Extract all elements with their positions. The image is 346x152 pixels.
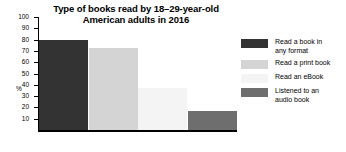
- y-tick-label: 10: [22, 115, 29, 122]
- y-tick-label: 80: [22, 36, 29, 43]
- legend-label: Read a print book: [275, 59, 330, 68]
- chart-title-line-1: Type of books read by 18–29-year-old: [52, 3, 220, 14]
- legend-swatch: [241, 74, 268, 83]
- chart-figure: Type of books read by 18–29-year-old Ame…: [0, 0, 346, 152]
- y-tick-label: 40: [22, 82, 29, 89]
- y-tick: 10: [34, 119, 38, 120]
- y-tick-label: 30: [22, 93, 29, 100]
- y-tick-label: 100: [18, 14, 29, 21]
- x-axis-line: [38, 130, 237, 132]
- y-tick: 50: [34, 74, 38, 75]
- y-tick: 80: [34, 40, 38, 41]
- legend-label: Read a book in any format: [275, 38, 322, 55]
- y-tick: 90: [34, 28, 38, 29]
- y-tick: 70: [34, 51, 38, 52]
- bar: [39, 40, 88, 130]
- y-tick-label: 70: [22, 48, 29, 55]
- y-tick: 30: [34, 96, 38, 97]
- legend-swatch: [241, 88, 268, 97]
- legend-item[interactable]: Listened to an audio book: [241, 87, 346, 104]
- y-tick-label: 50: [22, 70, 29, 77]
- y-tick: 20: [34, 107, 38, 108]
- y-tick-label: 20: [22, 104, 29, 111]
- legend-item[interactable]: Read a book in any format: [241, 38, 346, 55]
- legend-swatch: [241, 60, 268, 69]
- y-tick-label: 60: [22, 59, 29, 66]
- y-tick: 60: [34, 62, 38, 63]
- legend-item[interactable]: Read an eBook: [241, 73, 346, 83]
- legend-label: Listened to an audio book: [275, 87, 319, 104]
- bar: [89, 48, 138, 130]
- bar: [188, 111, 237, 130]
- bar-series: [39, 17, 237, 130]
- legend-swatch: [241, 39, 268, 48]
- plot-area: 100908070605040302010: [38, 17, 237, 132]
- y-tick-label: 90: [22, 25, 29, 32]
- chart-legend: Read a book in any formatRead a print bo…: [241, 38, 346, 108]
- legend-item[interactable]: Read a print book: [241, 59, 346, 69]
- y-tick: 40: [34, 85, 38, 86]
- y-tick: 100: [34, 17, 38, 18]
- legend-label: Read an eBook: [275, 73, 323, 82]
- bar: [138, 88, 187, 130]
